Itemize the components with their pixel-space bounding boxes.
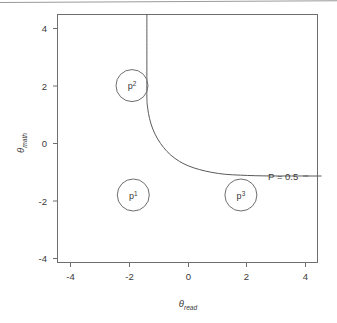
x-tick-label-3: 2 [244, 271, 249, 282]
marker-p2: p2 [116, 70, 148, 102]
figure-container: -4 -2 0 2 4 4 2 0 -2 -4 θread θmath P = … [0, 0, 337, 323]
x-tick-label-0: -4 [66, 271, 74, 282]
y-tick-label-3: 2 [42, 81, 47, 92]
contour-label-text: P = 0.5 [268, 171, 298, 182]
marker-p1: p1 [117, 179, 149, 211]
marker-p2-label: p2 [128, 80, 137, 91]
marker-p1-label: p1 [129, 190, 138, 201]
contour-plot: -4 -2 0 2 4 4 2 0 -2 -4 θread θmath P = … [0, 0, 337, 323]
y-tick-label-0: -4 [39, 253, 47, 264]
x-axis-title: θread [179, 298, 198, 311]
y-axis-title: θmath [15, 133, 28, 153]
y-tick-label-4: 4 [42, 23, 47, 34]
marker-p3: p3 [225, 179, 257, 211]
contour-curve-p05 [147, 15, 308, 176]
marker-p3-label: p3 [237, 190, 246, 201]
x-tick-label-1: -2 [125, 271, 133, 282]
y-axis-ticks [53, 29, 57, 259]
x-tick-label-4: 4 [303, 271, 308, 282]
plot-frame [58, 15, 318, 263]
x-axis-ticks [71, 263, 306, 267]
y-tick-label-2: 0 [42, 138, 47, 149]
y-tick-label-1: -2 [39, 196, 47, 207]
x-tick-label-2: 0 [186, 271, 191, 282]
